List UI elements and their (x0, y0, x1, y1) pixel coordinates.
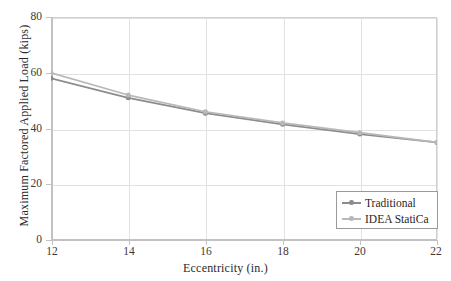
x-tick-label-12: 12 (46, 245, 58, 257)
x-tick-label-22: 22 (430, 245, 442, 257)
x-axis-title: Eccentricity (in.) (0, 261, 451, 276)
chart-figure: 80 60 40 20 0 12 14 16 18 20 22 Eccentri… (0, 0, 451, 281)
legend-item-traditional: Traditional (342, 195, 433, 211)
chart-legend: Traditional IDEA StatiCa (336, 191, 438, 229)
data-point-marker (280, 120, 285, 125)
data-point-marker (51, 70, 54, 75)
legend-item-idea-statica: IDEA StatiCa (342, 211, 433, 227)
legend-marker-icon-traditional (342, 198, 361, 208)
series-line (51, 73, 437, 143)
x-tick-label-18: 18 (277, 245, 289, 257)
data-point-marker (203, 109, 208, 114)
data-point-marker (357, 130, 362, 135)
y-axis-title: Maximum Factored Applied Load (kips) (17, 6, 32, 246)
series-line (51, 78, 437, 142)
data-point-marker (126, 93, 131, 98)
legend-marker-icon-idea-statica (342, 214, 361, 224)
series-idea-statica (51, 70, 437, 145)
x-tick-label-20: 20 (354, 245, 366, 257)
x-tick-label-14: 14 (123, 245, 135, 257)
legend-label-idea-statica: IDEA StatiCa (365, 213, 429, 225)
data-point-marker (435, 140, 438, 145)
x-tick-label-16: 16 (200, 245, 212, 257)
legend-label-traditional: Traditional (365, 197, 416, 209)
data-point-marker (51, 76, 54, 81)
